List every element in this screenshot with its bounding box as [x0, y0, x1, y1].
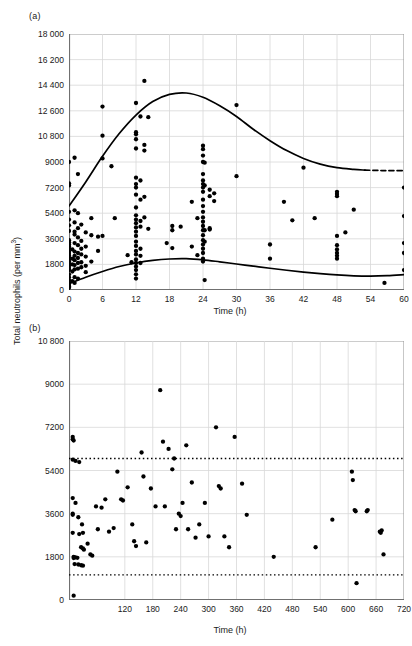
- data-point: [201, 190, 205, 194]
- data-point: [138, 198, 142, 202]
- data-point: [134, 221, 138, 225]
- data-point: [134, 544, 138, 548]
- data-point: [134, 225, 138, 229]
- x-tick-label: 36: [255, 294, 285, 304]
- data-point: [142, 215, 146, 219]
- data-point: [190, 480, 194, 484]
- panel-label-a: (a): [29, 11, 41, 21]
- data-point: [353, 509, 357, 513]
- data-point: [268, 242, 272, 246]
- data-point: [76, 211, 80, 215]
- data-point: [130, 522, 134, 526]
- data-point: [214, 425, 218, 429]
- data-point: [69, 160, 71, 164]
- data-point: [81, 564, 85, 568]
- data-point: [222, 534, 226, 538]
- data-point: [268, 257, 272, 261]
- data-point: [84, 254, 88, 258]
- data-point: [77, 460, 81, 464]
- data-point: [186, 527, 190, 531]
- y-tick-label: 16 200: [6, 55, 64, 65]
- data-point: [79, 252, 83, 256]
- data-point: [195, 216, 199, 220]
- data-point: [84, 244, 88, 248]
- data-point: [115, 470, 119, 474]
- data-point: [134, 193, 138, 197]
- data-point: [301, 166, 305, 170]
- x-tick-label: 30: [222, 294, 252, 304]
- x-tick-label: 54: [356, 294, 386, 304]
- data-point: [208, 227, 212, 231]
- data-point: [402, 268, 404, 272]
- data-point: [201, 172, 205, 176]
- data-point: [132, 539, 136, 543]
- data-point: [234, 174, 238, 178]
- data-point: [138, 254, 142, 258]
- y-tick-label: 9000: [6, 379, 64, 389]
- x-tick-label: 60: [389, 294, 412, 304]
- data-point: [163, 504, 167, 508]
- data-point: [161, 440, 165, 444]
- data-point: [179, 514, 183, 518]
- data-point: [125, 485, 129, 489]
- data-point: [79, 260, 83, 264]
- data-point: [330, 518, 334, 522]
- data-point: [343, 230, 347, 234]
- data-point: [190, 244, 194, 248]
- data-point: [227, 545, 231, 549]
- data-point: [96, 527, 100, 531]
- data-point: [208, 194, 212, 198]
- data-point: [170, 228, 174, 232]
- y-tick-label: 18 000: [6, 29, 64, 39]
- y-tick-label: 9000: [6, 157, 64, 167]
- data-point: [76, 276, 80, 280]
- data-point: [166, 447, 170, 451]
- data-point: [134, 230, 138, 234]
- data-point: [113, 216, 117, 220]
- data-point: [203, 278, 207, 282]
- data-point: [134, 213, 138, 217]
- panel-label-b: (b): [29, 323, 41, 333]
- data-point: [240, 482, 244, 486]
- x-tick-label: 12: [121, 294, 151, 304]
- data-point: [73, 459, 77, 463]
- data-point: [206, 534, 210, 538]
- data-point: [77, 532, 81, 536]
- y-tick-label: 7200: [6, 183, 64, 193]
- x-tick-label: 24: [188, 294, 218, 304]
- data-point: [138, 261, 142, 265]
- data-point: [134, 137, 138, 141]
- data-point: [382, 281, 386, 285]
- x-tick-label: 360: [222, 604, 252, 614]
- data-point: [129, 260, 133, 264]
- data-point: [201, 247, 205, 251]
- data-point: [138, 178, 142, 182]
- data-point: [142, 195, 146, 199]
- data-point: [72, 562, 76, 566]
- data-point: [134, 239, 138, 243]
- data-point: [381, 552, 385, 556]
- figure-root: Total neutrophils (per mm3) (a) (b) Time…: [0, 0, 412, 646]
- x-tick-label: 540: [305, 604, 335, 614]
- data-point: [138, 247, 142, 251]
- data-point: [144, 540, 148, 544]
- data-point: [141, 474, 145, 478]
- data-points: [71, 388, 386, 598]
- data-point: [351, 478, 355, 482]
- data-point: [203, 161, 207, 165]
- data-point: [335, 257, 339, 261]
- data-point: [380, 528, 384, 532]
- data-point: [72, 594, 76, 598]
- data-point: [282, 200, 286, 204]
- data-point: [272, 555, 276, 559]
- data-point: [201, 259, 205, 263]
- data-point: [72, 208, 76, 212]
- upper-reference-curve: [69, 93, 365, 206]
- data-point: [72, 156, 76, 160]
- data-point: [69, 217, 71, 221]
- panel-b-x-axis-label: Time (h): [170, 625, 290, 635]
- data-point: [72, 281, 76, 285]
- data-point: [84, 270, 88, 274]
- y-tick-label: 10 800: [6, 336, 64, 346]
- data-point: [134, 268, 138, 272]
